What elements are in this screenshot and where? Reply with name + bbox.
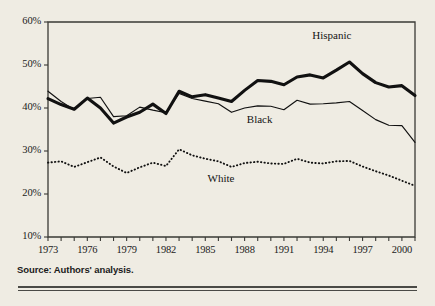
y-axis-tick-label: 10% — [7, 230, 41, 241]
y-axis-tick-label: 40% — [7, 101, 41, 112]
x-axis-tick-label: 1994 — [301, 244, 345, 255]
y-axis-tick-label: 60% — [7, 15, 41, 26]
figure: 60%50%40%30%20%10% 197319761979198219851… — [0, 0, 435, 306]
footer-rules — [18, 286, 417, 291]
series-line-black — [48, 91, 415, 142]
y-axis-tick-label: 50% — [7, 58, 41, 69]
x-axis-tick-label: 2000 — [380, 244, 424, 255]
x-axis-tick-label: 1979 — [105, 244, 149, 255]
y-axis-tick-label: 30% — [7, 144, 41, 155]
chart-series — [48, 62, 415, 186]
series-label-white: White — [208, 172, 235, 184]
chart-plot-area: 60%50%40%30%20%10% 197319761979198219851… — [0, 0, 435, 262]
source-note: Source: Authors' analysis. — [17, 264, 134, 275]
series-label-black: Black — [247, 113, 273, 125]
x-axis-tick-label: 1997 — [341, 244, 385, 255]
x-axis-tick-label: 1988 — [223, 244, 267, 255]
footer-rule-bottom — [18, 290, 417, 291]
x-axis-tick-label: 1985 — [183, 244, 227, 255]
x-axis-tick-label: 1991 — [262, 244, 306, 255]
series-line-hispanic — [48, 62, 415, 123]
x-axis-tick-label: 1982 — [144, 244, 188, 255]
chart-axes — [44, 22, 415, 241]
plot-frame — [48, 22, 415, 237]
line-chart-svg — [0, 0, 435, 262]
x-axis-tick-label: 1976 — [65, 244, 109, 255]
y-axis-tick-label: 20% — [7, 187, 41, 198]
x-axis-tick-label: 1973 — [26, 244, 70, 255]
series-label-hispanic: Hispanic — [312, 29, 351, 41]
